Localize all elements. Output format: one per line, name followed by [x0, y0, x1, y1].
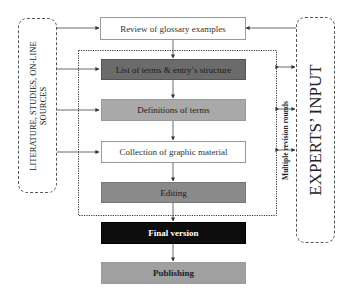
step-label: Definitions of terms — [137, 105, 210, 115]
step-publishing: Publishing — [101, 262, 246, 284]
sources-label: LITERATURE, STUDIES, ON-LINE SOURCES — [28, 41, 48, 170]
sources-label-line2: SOURCES — [38, 41, 48, 170]
revision-frame-label: Multiple revision rounds — [281, 101, 290, 180]
step-collection-graphic-material: Collection of graphic material — [101, 141, 246, 163]
revision-frame-label-wrap: Multiple revision rounds — [267, 90, 303, 190]
sources-box: LITERATURE, STUDIES, ON-LINE SOURCES — [18, 18, 57, 193]
step-label: Publishing — [153, 268, 194, 278]
step-label: Final version — [148, 228, 198, 238]
step-final-version: Final version — [101, 222, 246, 244]
step-label: Review of glossary examples — [120, 24, 226, 34]
step-label: List of terms & entry’s structure — [116, 65, 232, 75]
step-review-glossary-examples: Review of glossary examples — [100, 17, 246, 40]
step-label: Collection of graphic material — [119, 147, 227, 157]
step-definitions-of-terms: Definitions of terms — [101, 99, 246, 121]
sources-label-line1: LITERATURE, STUDIES, ON-LINE — [28, 41, 38, 170]
experts-label: EXPERTS’ INPUT — [306, 64, 326, 195]
step-label: Editing — [160, 188, 187, 198]
step-editing: Editing — [101, 182, 246, 203]
step-list-of-terms: List of terms & entry’s structure — [101, 59, 246, 80]
